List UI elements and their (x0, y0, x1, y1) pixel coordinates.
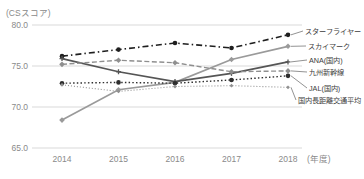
series-1-point-2017 (229, 57, 235, 63)
x-axis-unit-label: (年度) (307, 154, 331, 164)
y-tick-label: 65.0 (11, 143, 28, 153)
legend-callout-4 (291, 76, 307, 88)
series-line-0 (62, 35, 288, 56)
legend-callout-5 (291, 87, 296, 100)
legend-label-5: 国内長距離交通平均 (298, 96, 361, 105)
x-tick-label-2014: 2014 (53, 154, 72, 164)
series-0-point-2018 (286, 33, 291, 38)
legend-label-1: スカイマーク (308, 42, 350, 51)
y-tick-label: 75.0 (11, 61, 28, 71)
chart-canvas: (CSスコア)80.075.070.065.020142015201620172… (0, 0, 364, 179)
legend-label-2: ANA(国内) (309, 56, 343, 65)
series-0-point-2017 (229, 46, 234, 51)
series-4-point-2015 (116, 80, 121, 85)
legend-label-4: JAL(国内) (309, 84, 340, 93)
series-0-point-2015 (116, 47, 121, 52)
series-4-point-2018 (286, 74, 291, 79)
series-5-point-2016 (173, 85, 177, 89)
y-tick-label: 70.0 (11, 102, 28, 112)
series-3-point-2018 (285, 68, 291, 74)
y-tick-label: 80.0 (11, 20, 28, 30)
x-tick-label-2016: 2016 (166, 154, 185, 164)
series-3-point-2016 (172, 60, 178, 66)
series-5-point-2017 (230, 84, 234, 88)
x-tick-label-2017: 2017 (222, 154, 241, 164)
legend-label-3: 九州新幹線 (309, 68, 344, 77)
series-5-point-2018 (286, 85, 290, 89)
x-tick-label-2018: 2018 (279, 154, 298, 164)
x-tick-label-2015: 2015 (109, 154, 128, 164)
legend-callout-2 (291, 60, 307, 62)
series-3-point-2015 (116, 57, 122, 63)
series-1-point-2018 (285, 44, 291, 50)
y-axis-unit-label: (CSスコア) (6, 8, 51, 18)
legend-callout-0 (291, 31, 303, 35)
legend-label-0: スターフライヤー (305, 27, 361, 36)
series-4-point-2017 (229, 78, 234, 83)
legend-callout-3 (291, 71, 307, 72)
series-0-point-2016 (173, 41, 178, 46)
cs-score-line-chart: (CSスコア)80.075.070.065.020142015201620172… (0, 0, 364, 179)
